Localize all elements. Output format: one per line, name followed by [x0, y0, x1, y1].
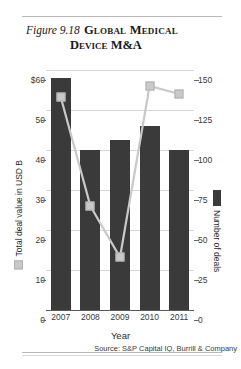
figure-title-line2: Device M&A [70, 38, 226, 53]
data-point-marker [56, 93, 65, 102]
data-point-marker [116, 253, 125, 262]
left-axis-tick-mark [41, 200, 46, 201]
right-axis-tick-mark [194, 280, 199, 281]
right-axis-tick-label: 0 [198, 315, 238, 325]
plot-region [46, 70, 194, 310]
data-point-marker [145, 82, 154, 91]
right-axis-tick-label: 25 [198, 275, 238, 285]
chart-area: Total deal value in USD B Number of deal… [0, 60, 241, 320]
left-axis-tick-label: 10 [5, 275, 45, 285]
left-axis-tick-label: 20 [5, 235, 45, 245]
right-axis-tick-label: 100 [198, 155, 238, 165]
right-axis-tick-mark [194, 200, 199, 201]
left-axis-tick-mark [41, 240, 46, 241]
right-axis-tick-label: 125 [198, 115, 238, 125]
line-series-path [46, 70, 194, 310]
figure-title-line1: Global Medical [84, 23, 178, 37]
x-axis-tick-label: 2009 [111, 312, 130, 322]
left-axis-tick-label: 40 [5, 155, 45, 165]
bottom-divider [22, 352, 222, 353]
left-axis-title: Total deal value in USD B [14, 160, 24, 269]
right-axis-tick-mark [194, 240, 199, 241]
figure-panel: Figure 9.18 Global Medical Device M&A To… [0, 0, 241, 369]
data-point-marker [86, 202, 95, 211]
left-axis-tick-mark [41, 120, 46, 121]
right-axis-tick-label: 75 [198, 195, 238, 205]
figure-label: Figure 9.18 [26, 24, 80, 36]
right-axis-tick-mark [194, 320, 199, 321]
left-axis-tick-mark [41, 320, 46, 321]
x-axis-tick-label: 2007 [51, 312, 70, 322]
left-axis-tick-label: 0 [5, 315, 45, 325]
left-axis-tick-label: 30 [5, 195, 45, 205]
top-divider [22, 16, 222, 17]
bottom-divider-secondary [22, 355, 222, 356]
left-axis-tick-mark [41, 80, 46, 81]
right-axis-tick-label: 50 [198, 235, 238, 245]
left-axis-tick-mark [41, 160, 46, 161]
right-axis-tick-label: 150 [198, 75, 238, 85]
x-axis-tick-label: 2010 [140, 312, 159, 322]
x-axis-title: Year [0, 330, 241, 341]
line-series-swatch-icon [15, 260, 24, 269]
right-axis-tick-mark [194, 120, 199, 121]
right-axis-tick-mark [194, 80, 199, 81]
left-axis-tick-label: $60 [5, 75, 45, 85]
x-axis-tick-label: 2011 [170, 312, 188, 322]
left-axis-tick-label: 50 [5, 115, 45, 125]
left-axis-tick-mark [41, 280, 46, 281]
data-point-marker [175, 90, 184, 99]
figure-title: Figure 9.18 Global Medical Device M&A [26, 20, 226, 53]
x-axis-line [46, 310, 194, 311]
right-axis-tick-mark [194, 160, 199, 161]
x-axis-tick-label: 2008 [81, 312, 100, 322]
